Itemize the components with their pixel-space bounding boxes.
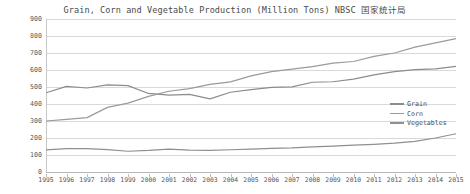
x-tick-label: 1996 xyxy=(59,176,74,184)
x-tick-label: 2002 xyxy=(182,176,197,184)
line-chart: Grain, Corn and Vegetable Production (Mi… xyxy=(0,0,470,194)
y-tick-label: 200 xyxy=(2,134,42,142)
x-tick-label: 2010 xyxy=(346,176,361,184)
x-tick-label: 1999 xyxy=(120,176,135,184)
legend-color-swatch xyxy=(390,122,404,124)
x-tick-label: 2008 xyxy=(305,176,320,184)
x-tick-label: 1997 xyxy=(79,176,94,184)
x-tick-label: 1998 xyxy=(100,176,115,184)
x-tick-label: 2012 xyxy=(387,176,402,184)
y-tick-label: 500 xyxy=(2,83,42,91)
x-tick-label: 1995 xyxy=(38,176,53,184)
series-lines xyxy=(46,19,456,172)
x-tick-label: 2007 xyxy=(284,176,299,184)
y-tick-label: 600 xyxy=(2,66,42,74)
y-tick-label: 100 xyxy=(2,151,42,159)
legend-color-swatch xyxy=(390,103,404,105)
x-tick-label: 2000 xyxy=(141,176,156,184)
chart-title: Grain, Corn and Vegetable Production (Mi… xyxy=(0,3,470,15)
legend-label: Grain xyxy=(407,100,427,108)
legend-label: Vegetables xyxy=(407,119,447,127)
x-tick-label: 2009 xyxy=(325,176,340,184)
x-tick-label: 2013 xyxy=(407,176,422,184)
series-line-vegetables xyxy=(46,134,456,152)
y-tick-label: 700 xyxy=(2,49,42,57)
x-axis-line xyxy=(46,172,456,173)
x-tick-label: 2011 xyxy=(366,176,381,184)
x-tick-label: 2006 xyxy=(264,176,279,184)
y-axis-tick-labels: 0100200300400500600700800900 xyxy=(0,19,42,172)
x-tick-label: 2003 xyxy=(202,176,217,184)
legend-item-grain[interactable]: Grain xyxy=(390,100,462,108)
legend-label: Corn xyxy=(407,110,423,118)
y-tick-label: 0 xyxy=(2,168,42,176)
y-tick-label: 800 xyxy=(2,32,42,40)
legend-item-vegetables[interactable]: Vegetables xyxy=(390,119,462,127)
legend-item-corn[interactable]: Corn xyxy=(390,110,462,118)
x-tick-label: 2015 xyxy=(448,176,463,184)
x-tick-label: 2014 xyxy=(428,176,443,184)
x-tick-label: 2005 xyxy=(243,176,258,184)
x-axis-tick-labels: 1995199619971998199920002001200220032004… xyxy=(46,174,456,190)
chart-legend: GrainCornVegetables xyxy=(390,100,462,129)
y-tick-label: 400 xyxy=(2,100,42,108)
y-tick-label: 900 xyxy=(2,15,42,23)
x-tick-label: 2001 xyxy=(161,176,176,184)
x-tick-label: 2004 xyxy=(223,176,238,184)
y-tick-label: 300 xyxy=(2,117,42,125)
legend-color-swatch xyxy=(390,113,404,115)
series-line-grain xyxy=(46,66,456,98)
